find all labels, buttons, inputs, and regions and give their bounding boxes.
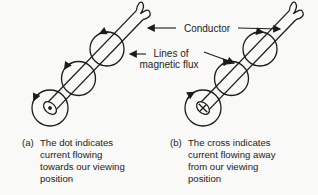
conductor-arrow-right bbox=[238, 28, 280, 29]
flux-circle bbox=[90, 32, 124, 66]
flux-diagram: Conductor Lines of magnetic flux (a) The… bbox=[0, 0, 318, 195]
caption-a-line: position bbox=[40, 173, 73, 184]
flux-arrow-cw bbox=[254, 32, 263, 33]
flux-arrow-to-right-diagram bbox=[204, 52, 234, 63]
caption-b-prefix: (b) bbox=[170, 137, 182, 148]
caption-b-line: The cross indicates bbox=[188, 137, 271, 148]
figure-canvas: Conductor Lines of magnetic flux (a) The… bbox=[0, 0, 318, 195]
flux-circles-a bbox=[32, 32, 124, 126]
caption-a-prefix: (a) bbox=[22, 137, 34, 148]
flux-arrow-cw bbox=[222, 62, 230, 65]
caption-b: (b) The cross indicates current flowing … bbox=[170, 137, 276, 184]
flux-circle bbox=[243, 32, 277, 66]
flux-label-line1: Lines of bbox=[153, 48, 188, 59]
conductor-a-group bbox=[32, 1, 153, 126]
flux-arrow-cw bbox=[187, 92, 194, 99]
flux-circles-b bbox=[185, 32, 277, 126]
flux-arrow-ccw bbox=[65, 63, 72, 69]
caption-b-line: current flowing away bbox=[188, 149, 276, 160]
caption-a-line: towards our viewing bbox=[40, 161, 125, 172]
flux-circle bbox=[215, 62, 249, 96]
flux-arrow-ccw bbox=[100, 32, 109, 34]
flux-arrow-ccw bbox=[34, 93, 40, 100]
caption-b-line: from our viewing bbox=[188, 161, 258, 172]
caption-a: (a) The dot indicates current flowing to… bbox=[22, 137, 125, 184]
dot-symbol-icon bbox=[47, 105, 52, 110]
caption-a-line: The dot indicates bbox=[40, 137, 113, 148]
conductor-b-rod bbox=[193, 1, 306, 117]
conductor-b-group bbox=[185, 1, 306, 126]
conductor-label: Conductor bbox=[184, 23, 231, 34]
flux-label-line2: magnetic flux bbox=[140, 59, 199, 70]
caption-b-line: position bbox=[188, 173, 221, 184]
caption-a-line: current flowing bbox=[40, 149, 102, 160]
conductor-a-rod bbox=[40, 1, 153, 117]
